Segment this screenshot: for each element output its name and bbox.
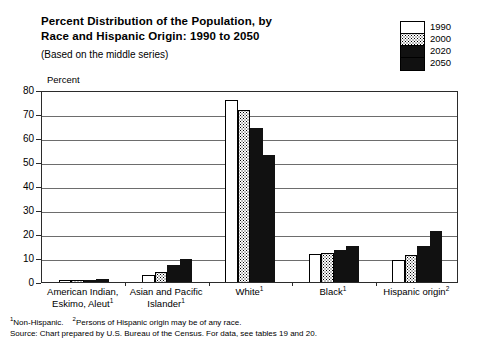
- bar-1990: [392, 260, 405, 282]
- y-axis-title: Percent: [47, 74, 80, 85]
- x-axis-category-labels: American Indian,Eskimo, Aleut1Asian and …: [41, 286, 458, 312]
- footnote-text-1a: Non-Hispanic.: [13, 318, 63, 327]
- bar-1990: [225, 100, 238, 282]
- y-axis-labels: 01020304050607080: [0, 91, 41, 284]
- y-tick-label-20: 20: [23, 230, 34, 240]
- bar-2020: [167, 265, 180, 282]
- chart-legend: 1990 2000 2020 2050: [400, 21, 451, 71]
- bar-2020: [334, 250, 347, 282]
- footnote-source-line: Source: Chart prepared by U.S. Bureau of…: [10, 329, 480, 340]
- y-tick-mark-0: [36, 283, 41, 284]
- legend-swatch-2050: [401, 58, 424, 70]
- y-tick-label-60: 60: [23, 134, 34, 144]
- page-title-line-1: Percent Distribution of the Population, …: [41, 14, 341, 29]
- chart-subtitle: (Based on the middle series): [41, 48, 341, 62]
- legend-label-column: 1990 2000 2020 2050: [430, 21, 451, 71]
- bar-2000: [405, 255, 418, 282]
- bar-2050: [430, 231, 443, 282]
- bar-group: [292, 92, 375, 282]
- x-category-label-superscript: 1: [181, 296, 185, 303]
- bar-2020: [250, 128, 263, 282]
- bar-1990: [59, 280, 72, 282]
- x-category-label-line2: Eskimo, Aleut1: [41, 298, 124, 310]
- page-title-line-2: Race and Hispanic Origin: 1990 to 2050: [41, 29, 341, 44]
- legend-label-2050: 2050: [430, 57, 451, 69]
- y-tick-label-40: 40: [23, 182, 34, 192]
- bar-1990: [142, 275, 155, 282]
- legend-label-2020: 2020: [430, 45, 451, 57]
- bar-group: [376, 92, 459, 282]
- y-tick-label-10: 10: [23, 254, 34, 264]
- x-category-label-superscript: 1: [343, 285, 347, 292]
- x-category-label: American Indian,Eskimo, Aleut1: [41, 286, 124, 309]
- x-category-label-line2: Islander1: [124, 298, 207, 310]
- x-category-label: Asian and PacificIslander1: [124, 286, 207, 309]
- bar-1990: [309, 254, 322, 282]
- legend-swatch-column: [400, 21, 425, 71]
- x-category-label-superscript: 2: [446, 285, 450, 292]
- y-tick-label-70: 70: [23, 110, 34, 120]
- footnote-text-1b: Persons of Hispanic origin may be of any…: [76, 318, 241, 327]
- x-category-label-superscript: 1: [110, 296, 114, 303]
- y-tick-label-80: 80: [23, 86, 34, 96]
- x-category-label-line1: Hispanic origin2: [375, 286, 458, 298]
- bar-2050: [346, 246, 359, 282]
- legend-label-2000: 2000: [430, 33, 451, 45]
- x-category-label-line1: White1: [208, 286, 291, 298]
- x-category-label: Black1: [291, 286, 374, 298]
- footnotes: 1Non-Hispanic.2Persons of Hispanic origi…: [10, 318, 480, 339]
- bar-group: [125, 92, 208, 282]
- x-category-label: Hispanic origin2: [375, 286, 458, 298]
- bar-2020: [84, 280, 97, 282]
- bar-2000: [71, 280, 84, 282]
- y-tick-label-0: 0: [28, 278, 34, 288]
- legend-swatch-1990: [401, 22, 424, 34]
- bar-2000: [238, 110, 251, 282]
- title-block: Percent Distribution of the Population, …: [41, 14, 341, 62]
- bar-group: [209, 92, 292, 282]
- legend-swatch-2020: [401, 46, 424, 58]
- legend-label-1990: 1990: [430, 21, 451, 33]
- x-category-label-line1: Black1: [291, 286, 374, 298]
- bar-2050: [263, 155, 276, 282]
- bar-2000: [321, 253, 334, 282]
- footnote-line-1: 1Non-Hispanic.2Persons of Hispanic origi…: [10, 318, 480, 329]
- bar-2050: [180, 259, 193, 282]
- x-category-label-line1: Asian and Pacific: [124, 286, 207, 298]
- bar-group: [42, 92, 125, 282]
- bar-2050: [96, 279, 109, 282]
- x-category-label: White1: [208, 286, 291, 298]
- x-category-label-superscript: 1: [260, 285, 264, 292]
- y-tick-label-50: 50: [23, 158, 34, 168]
- bar-series-container: [42, 92, 457, 282]
- bar-2020: [417, 246, 430, 282]
- y-tick-label-30: 30: [23, 206, 34, 216]
- chart-plot-area: [41, 91, 458, 283]
- legend-swatch-2000: [401, 34, 424, 46]
- bar-2000: [155, 272, 168, 282]
